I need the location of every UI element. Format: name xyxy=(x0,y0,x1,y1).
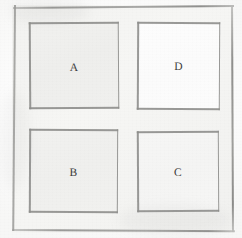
square-cell-c-label: C xyxy=(137,167,219,179)
outer-border-left-stroke xyxy=(12,5,15,231)
square-cell-a-label: A xyxy=(29,62,119,74)
outer-border-top-stroke xyxy=(13,5,234,9)
square-cell-b-label: B xyxy=(29,167,118,179)
outer-border-bottom-stroke xyxy=(12,229,235,232)
sketch-canvas: A D B C xyxy=(0,0,242,238)
square-cell-a: A xyxy=(29,22,120,110)
square-cell-d: D xyxy=(137,22,220,110)
square-cell-b: B xyxy=(29,129,118,213)
square-cell-d-label: D xyxy=(137,61,220,73)
square-cell-c: C xyxy=(137,131,219,212)
outer-border-right-stroke xyxy=(231,6,234,232)
